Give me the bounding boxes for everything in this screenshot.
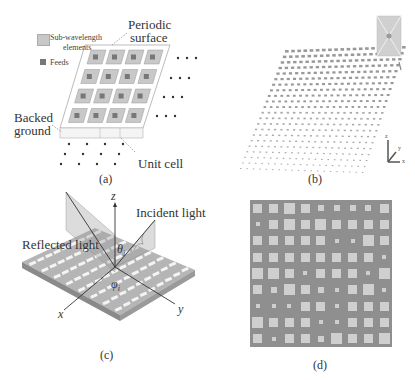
patch-square xyxy=(348,253,357,262)
label-incident: Incident light xyxy=(136,206,206,219)
unit-cell xyxy=(250,200,266,216)
patch-square xyxy=(301,253,310,262)
patch-square xyxy=(303,271,307,275)
unit-cell xyxy=(376,331,392,347)
caption-b: (b) xyxy=(308,172,322,187)
patch-square xyxy=(268,268,279,279)
legend-label-feeds: Feeds xyxy=(50,58,69,67)
patch-square xyxy=(253,253,262,262)
unit-cell xyxy=(266,200,282,216)
unit-cell xyxy=(313,200,329,216)
patch-square xyxy=(272,337,276,341)
patch-square xyxy=(379,333,390,344)
array-perspective-diagram: z y x xyxy=(210,0,415,190)
patch-square xyxy=(364,318,373,327)
label-x-c: x xyxy=(58,308,63,321)
unit-cell xyxy=(360,331,376,347)
unit-cell xyxy=(266,265,282,281)
metasurface-top-view-grid xyxy=(250,200,392,347)
patch-square xyxy=(334,205,340,211)
patch-square xyxy=(350,205,356,211)
patch-square xyxy=(269,318,278,327)
patch-square xyxy=(301,318,310,327)
patch-square xyxy=(365,205,371,211)
unit-cell xyxy=(297,298,313,314)
unit-cell xyxy=(329,249,345,265)
unit-cell xyxy=(376,233,392,249)
patch-square xyxy=(348,302,357,311)
unit-cell xyxy=(297,331,313,347)
unit-cell xyxy=(376,298,392,314)
patch-square xyxy=(335,304,339,308)
patch-square xyxy=(316,253,325,262)
unit-cell xyxy=(266,314,282,330)
patch-square xyxy=(332,220,341,229)
unit-cell xyxy=(313,282,329,298)
unit-cell xyxy=(360,265,376,281)
patch-square xyxy=(335,320,339,324)
patch-square xyxy=(287,304,291,308)
patch-square xyxy=(253,334,262,343)
patch-square xyxy=(271,287,277,293)
unit-cell xyxy=(250,265,266,281)
label-z-c: z xyxy=(111,190,116,203)
legend-label-elements-1: Sub-wavelength xyxy=(50,33,102,42)
svg-text:y: y xyxy=(398,145,401,151)
legend-swatch-elements xyxy=(37,34,50,46)
unit-cell xyxy=(360,233,376,249)
unit-cell xyxy=(360,298,376,314)
unit-cell xyxy=(313,216,329,232)
unit-cell xyxy=(282,265,298,281)
unit-cell xyxy=(297,216,313,232)
patch-square xyxy=(348,285,357,294)
patch-square xyxy=(285,334,294,343)
unit-cell xyxy=(329,298,345,314)
unit-cell xyxy=(282,200,298,216)
patch-square xyxy=(348,269,357,278)
unit-cell xyxy=(360,200,376,216)
patch-square xyxy=(316,302,325,311)
unit-cell xyxy=(376,314,392,330)
unit-cell xyxy=(376,265,392,281)
unit-cell xyxy=(266,331,282,347)
unit-cell xyxy=(329,331,345,347)
unit-cell xyxy=(313,331,329,347)
patch-square xyxy=(269,253,278,262)
patch-square xyxy=(316,236,325,245)
unit-cell xyxy=(266,298,282,314)
unit-cell xyxy=(376,249,392,265)
unit-cell xyxy=(313,298,329,314)
patch-square xyxy=(285,253,294,262)
unit-cell xyxy=(360,216,376,232)
unit-cell xyxy=(282,282,298,298)
patch-square xyxy=(253,285,262,294)
axes-triad-icon xyxy=(388,140,400,162)
unit-cell xyxy=(313,265,329,281)
unit-cell xyxy=(250,298,266,314)
patch-square xyxy=(332,253,341,262)
patch-square xyxy=(284,203,295,214)
unit-cell xyxy=(266,216,282,232)
caption-c: (c) xyxy=(100,348,113,363)
unit-cell xyxy=(360,249,376,265)
unit-cell xyxy=(360,314,376,330)
unit-cell xyxy=(250,233,266,249)
patch-square xyxy=(348,318,357,327)
patch-square xyxy=(318,336,324,342)
unit-cell xyxy=(266,233,282,249)
unit-cell xyxy=(250,282,266,298)
patch-square xyxy=(284,284,295,295)
patch-square xyxy=(316,269,325,278)
patch-square xyxy=(269,204,278,213)
patch-square xyxy=(380,220,389,229)
caption-d: (d) xyxy=(313,358,327,373)
patch-square xyxy=(331,333,342,344)
patch-square xyxy=(256,222,260,226)
unit-cell xyxy=(376,216,392,232)
unit-cell xyxy=(282,331,298,347)
patch-square xyxy=(332,269,341,278)
patch-square xyxy=(363,284,374,295)
theta-subscript: i xyxy=(123,249,125,258)
unit-cell xyxy=(376,200,392,216)
unit-cell xyxy=(376,282,392,298)
